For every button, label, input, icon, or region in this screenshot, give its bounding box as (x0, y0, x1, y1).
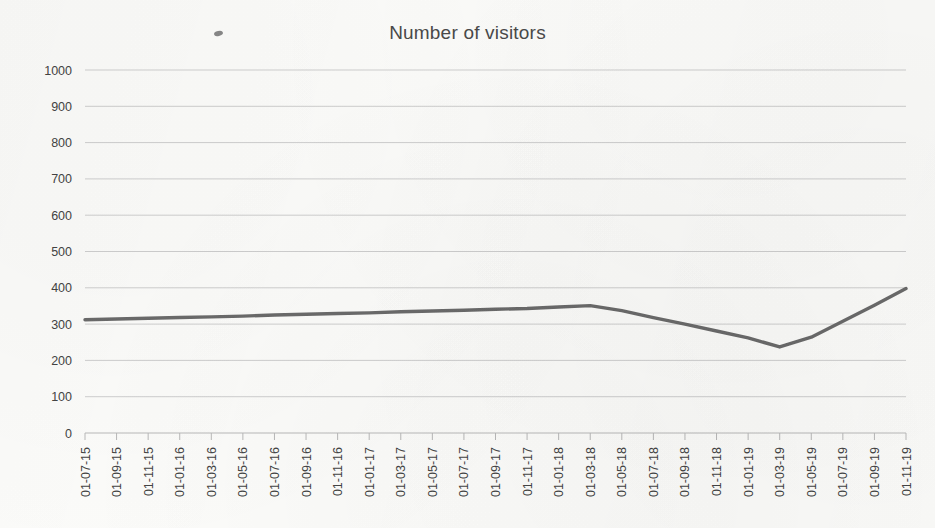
x-axis-tick-label: 01-09-17 (489, 447, 503, 497)
y-axis-tick-label: 700 (51, 172, 72, 186)
x-axis-tick-label: 01-11-19 (900, 447, 914, 496)
x-axis-tick-label: 01-03-19 (773, 447, 787, 497)
y-axis-tick-label: 500 (51, 245, 72, 259)
x-axis-tick-label: 01-09-16 (300, 447, 314, 497)
x-axis-tick-label: 01-03-16 (205, 447, 219, 497)
x-axis-tick-label: 01-07-15 (79, 447, 93, 497)
x-axis-tick-label: 01-01-19 (742, 447, 756, 497)
x-axis-tick-label: 01-05-16 (236, 447, 250, 497)
y-axis-tick-label: 100 (51, 390, 72, 404)
y-axis-tick-label: 0 (65, 427, 72, 441)
x-axis-tick-label: 01-11-17 (521, 447, 535, 496)
x-axis-tick-label: 01-11-18 (710, 447, 724, 496)
x-axis-tick-label: 01-03-18 (584, 447, 598, 497)
x-axis-tick-label: 01-05-19 (805, 447, 819, 497)
x-axis-tick-label: 01-03-17 (394, 447, 408, 497)
y-axis-tick-labels: 01002003004005006007008009001000 (44, 64, 72, 441)
chart-plot-area: 01002003004005006007008009001000 01-07-1… (0, 0, 935, 528)
y-axis-tick-label: 300 (51, 318, 72, 332)
chart-svg: 01002003004005006007008009001000 01-07-1… (0, 0, 935, 528)
x-axis-tick-label: 01-09-15 (110, 447, 124, 497)
x-axis-tick-label: 01-11-15 (142, 447, 156, 496)
x-axis-tick-label: 01-01-18 (552, 447, 566, 497)
x-axis-tick-labels: 01-07-1501-09-1501-11-1501-01-1601-03-16… (79, 447, 914, 497)
x-axis-tick-label: 01-07-16 (268, 447, 282, 497)
x-axis-tick-label: 01-09-19 (868, 447, 882, 497)
y-axis-tick-label: 600 (51, 209, 72, 223)
x-axis-tick-label: 01-09-18 (678, 447, 692, 497)
x-axis-tick-label: 01-05-18 (615, 447, 629, 497)
x-axis-ticks (85, 433, 906, 440)
y-axis-tick-label: 900 (51, 100, 72, 114)
gridlines-group (85, 70, 906, 433)
y-axis-tick-label: 400 (51, 281, 72, 295)
chart-title: Number of visitors (0, 22, 935, 44)
x-axis-tick-label: 01-07-19 (836, 447, 850, 497)
x-axis-tick-label: 01-01-16 (173, 447, 187, 497)
y-axis-tick-label: 800 (51, 136, 72, 150)
x-axis-tick-label: 01-07-18 (647, 447, 661, 497)
x-axis-tick-label: 01-11-16 (331, 447, 345, 496)
y-axis-tick-label: 1000 (44, 64, 72, 78)
x-axis-tick-label: 01-05-17 (426, 447, 440, 497)
data-line-number-of-visitors (85, 289, 906, 347)
x-axis-tick-label: 01-07-17 (457, 447, 471, 497)
x-axis-tick-label: 01-01-17 (363, 447, 377, 497)
y-axis-tick-label: 200 (51, 354, 72, 368)
data-series-group (85, 289, 906, 347)
